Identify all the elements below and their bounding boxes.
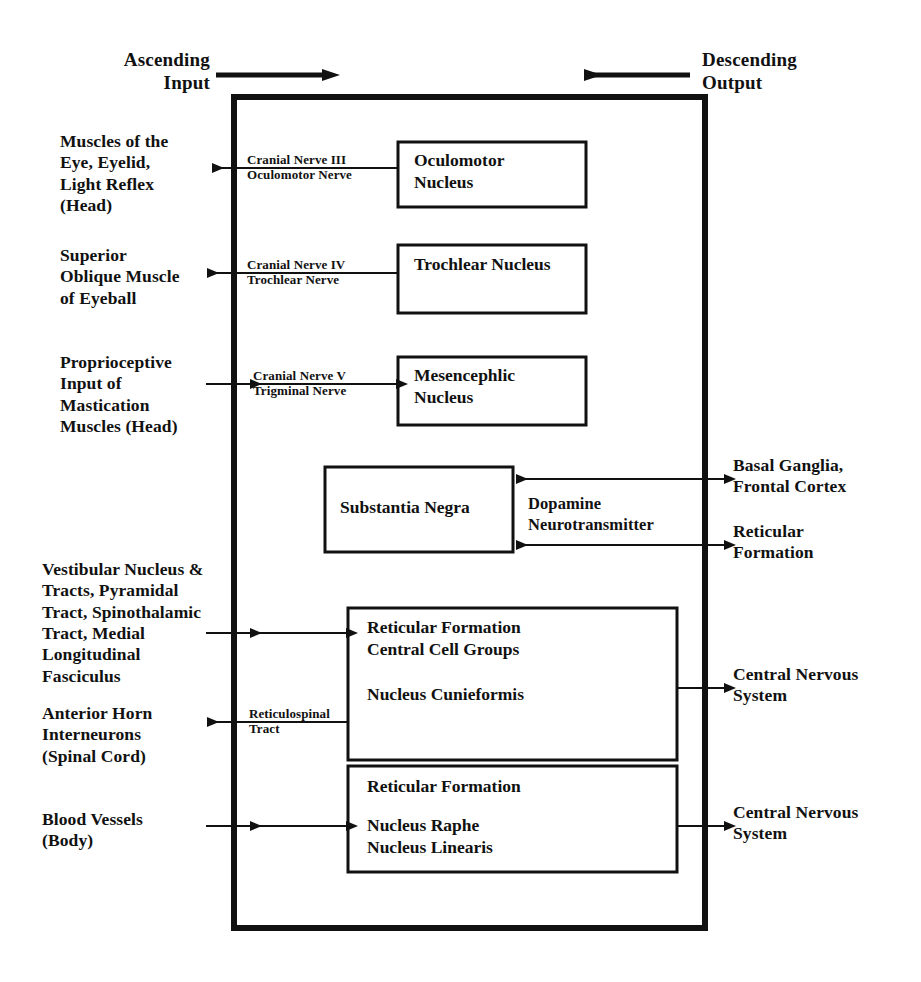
note-reticulospinal-tract: Reticulospinal Tract — [249, 706, 359, 737]
mesencephalic-nucleus-label: Mesencephlic Nucleus — [414, 365, 584, 409]
note-cranial-nerve-iv: Cranial Nerve IV Trochlear Nerve — [247, 257, 397, 288]
label-basal-ganglia: Basal Ganglia, Frontal Cortex — [733, 455, 913, 498]
label-muscles-of-eye: Muscles of the Eye, Eyelid, Light Reflex… — [60, 131, 220, 216]
label-cns-lower: Central Nervous System — [733, 802, 913, 845]
label-reticular-formation-right: Reticular Formation — [733, 521, 913, 564]
label-anterior-horn: Anterior Horn Interneurons (Spinal Cord) — [42, 703, 232, 767]
note-dopamine-neurotransmitter: Dopamine Neurotransmitter — [528, 494, 708, 535]
oculomotor-nucleus-label: Oculomotor Nucleus — [414, 150, 584, 194]
note-cranial-nerve-iii: Cranial Nerve III Oculomotor Nerve — [247, 152, 397, 183]
nucleus-raphe-linearis-label: Nucleus Raphe Nucleus Linearis — [367, 815, 657, 859]
label-vestibular-tracts: Vestibular Nucleus & Tracts, Pyramidal T… — [42, 559, 242, 687]
label-cns-upper: Central Nervous System — [733, 664, 913, 707]
trochlear-nucleus-label: Trochlear Nucleus — [414, 254, 589, 276]
ascending-input-heading: Ascending Input — [60, 48, 210, 94]
label-proprioceptive-input: Proprioceptive Input of Mastication Musc… — [60, 352, 240, 437]
label-superior-oblique: Superior Oblique Muscle of Eyeball — [60, 245, 230, 309]
note-cranial-nerve-v: Cranial Nerve V Trigminal Nerve — [253, 368, 403, 399]
nucleus-cunieformis-label: Nucleus Cunieformis — [367, 684, 657, 706]
descending-output-heading: Descending Output — [702, 48, 892, 94]
label-blood-vessels: Blood Vessels (Body) — [42, 809, 232, 852]
reticular-raphe-heading-label: Reticular Formation — [367, 776, 657, 798]
reticular-central-label: Reticular Formation Central Cell Groups — [367, 617, 657, 661]
substantia-negra-label: Substantia Negra — [340, 497, 510, 519]
midbrain-diagram: Ascending Input Descending Output Muscle… — [0, 0, 921, 982]
